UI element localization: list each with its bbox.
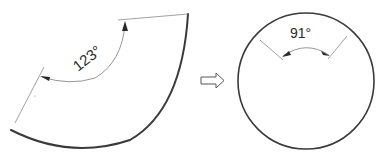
transform-arrow-icon bbox=[201, 73, 224, 88]
circle-radial-line-left bbox=[260, 40, 283, 60]
arrowhead-icon bbox=[122, 21, 128, 31]
center-mark bbox=[34, 95, 35, 96]
sector-figure: 123° bbox=[11, 14, 188, 148]
circle-angle-label: 91° bbox=[290, 25, 311, 41]
circle-figure: 91° bbox=[238, 13, 374, 149]
diagram-canvas: 123° 91° bbox=[0, 0, 382, 158]
sector-radial-line-bottom bbox=[15, 67, 44, 123]
arrowhead-icon bbox=[40, 76, 50, 81]
circle-radial-line-right bbox=[328, 36, 347, 59]
sector-outer-arc bbox=[11, 14, 188, 148]
sector-angle-label: 123° bbox=[69, 42, 104, 75]
sector-radial-line-top bbox=[118, 14, 188, 20]
